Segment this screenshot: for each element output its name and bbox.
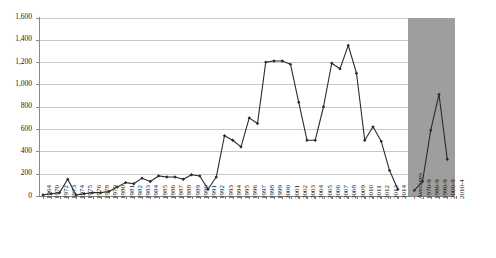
data-point [289, 63, 292, 66]
data-point [173, 175, 176, 178]
series-markers-yearly [41, 44, 399, 197]
data-point [165, 175, 168, 178]
data-point [297, 101, 300, 104]
line-chart: 02004006008001,0001,2001,4001,600 196419… [0, 0, 496, 258]
data-point [396, 188, 399, 191]
series-line-averages [414, 94, 447, 190]
data-point-average [446, 157, 449, 160]
data-point [50, 192, 53, 195]
data-point [314, 139, 317, 142]
data-point [347, 44, 350, 47]
data-point [305, 139, 308, 142]
series-line-yearly [43, 45, 398, 194]
data-point [322, 105, 325, 108]
data-point [99, 191, 102, 194]
data-point [281, 59, 284, 62]
data-point-average [437, 93, 440, 96]
data-point [264, 60, 267, 63]
data-point [91, 191, 94, 194]
data-point [83, 192, 86, 195]
data-point [41, 193, 44, 196]
data-point [355, 72, 358, 75]
data-point-average [429, 128, 432, 131]
data-series [0, 0, 496, 258]
data-point [272, 59, 275, 62]
series-markers-averages [413, 93, 449, 192]
data-point [388, 169, 391, 172]
